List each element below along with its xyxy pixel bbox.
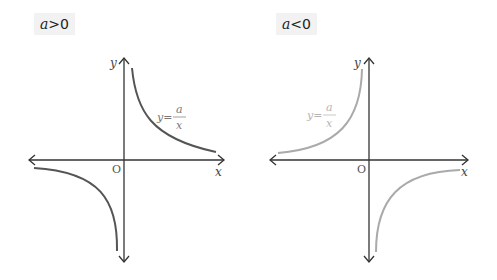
panel-a-negative: a<0 y x O y= a x — [249, 0, 497, 280]
hyperbola-branch-q1 — [132, 68, 216, 152]
y-axis-label: y — [109, 56, 117, 70]
x-axis — [29, 155, 224, 165]
equation-denominator: x — [176, 119, 183, 132]
equation-numerator: a — [176, 103, 183, 116]
hyperbola-branch-q4 — [376, 170, 460, 252]
hyperbola-graph-positive: y x O y= a x — [0, 0, 248, 280]
equation-numerator: a — [326, 101, 333, 114]
x-axis-label: x — [215, 165, 222, 179]
origin-label: O — [357, 163, 366, 176]
hyperbola-graph-negative: y x O y= a x — [249, 0, 497, 280]
panel-a-positive: a>0 y x O y= a x — [0, 0, 248, 280]
origin-label: O — [112, 163, 121, 176]
equation-label: y= a x — [306, 101, 336, 130]
equation-lhs: y= — [306, 109, 322, 122]
equation-label: y= a x — [156, 103, 186, 132]
y-axis-label: y — [353, 56, 361, 70]
equation-denominator: x — [326, 117, 333, 130]
hyperbola-branch-q3 — [34, 168, 117, 251]
x-axis-label: x — [461, 165, 468, 179]
equation-lhs: y= — [156, 111, 172, 124]
